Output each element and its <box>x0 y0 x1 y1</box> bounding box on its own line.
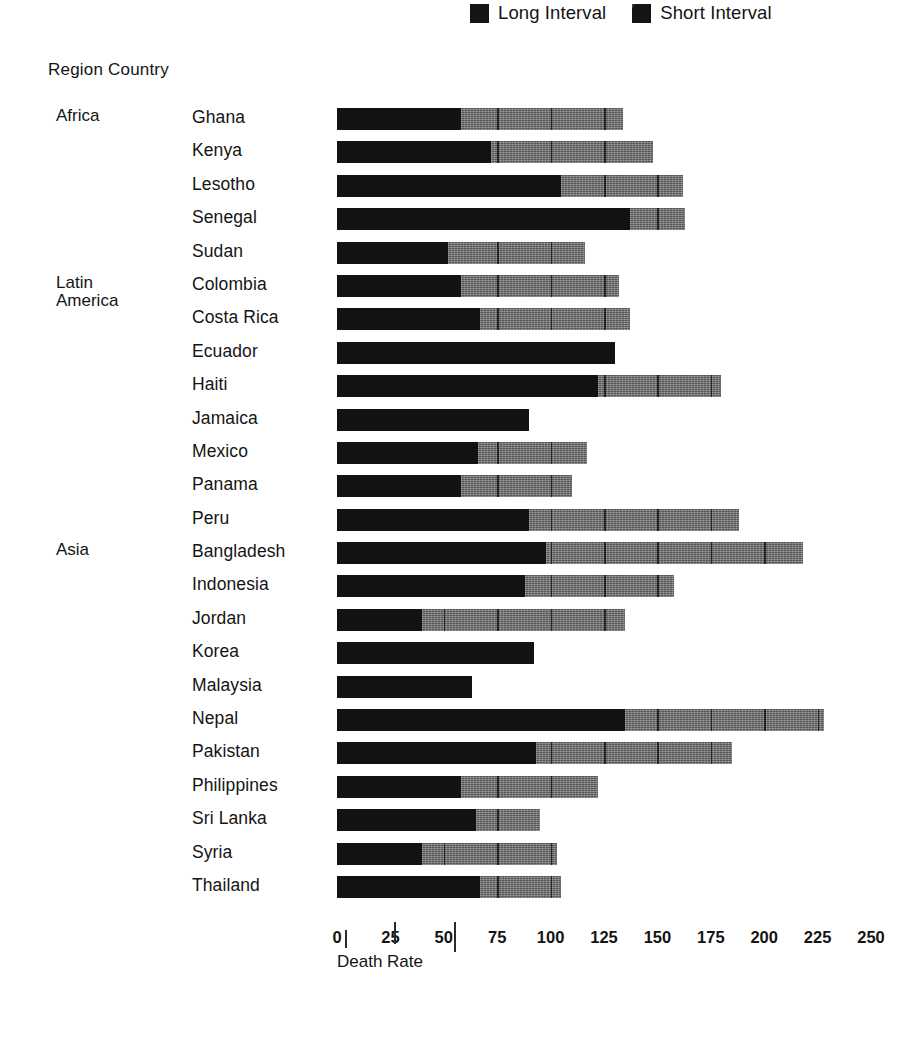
chart-row: Panama <box>0 471 901 504</box>
country-label: Ghana <box>192 107 245 128</box>
chart-row: Sri Lanka <box>0 805 901 838</box>
bar-interior-tick <box>657 509 659 531</box>
bar-segment-long-interval <box>337 375 598 397</box>
stacked-bar <box>337 843 557 865</box>
chart-row: Indonesia <box>0 571 901 604</box>
bar-wrapper <box>337 642 871 664</box>
bar-interior-tick <box>604 542 606 564</box>
bar-interior-tick <box>604 275 606 297</box>
bar-wrapper <box>337 308 871 330</box>
x-axis-tick-label: 200 <box>750 928 778 947</box>
bar-segment-short-interval <box>476 809 540 831</box>
bar-interior-tick <box>604 375 606 397</box>
bar-segment-long-interval <box>337 275 461 297</box>
x-axis-tick-label: 175 <box>697 928 725 947</box>
bar-segment-short-interval <box>461 108 623 130</box>
x-axis-rule-mark <box>345 930 347 948</box>
bar-segment-long-interval <box>337 542 546 564</box>
country-label: Lesotho <box>192 174 255 195</box>
chart-row: Jordan <box>0 605 901 638</box>
bar-segment-short-interval <box>480 876 561 898</box>
chart-row: Korea <box>0 638 901 671</box>
bar-chart-plot-area: AfricaGhanaKenyaLesothoSenegalSudanLatin… <box>0 104 901 905</box>
bar-segment-long-interval <box>337 141 491 163</box>
region-label: Asia <box>56 541 89 559</box>
country-label: Bangladesh <box>192 541 285 562</box>
bar-segment-long-interval <box>337 108 461 130</box>
bar-interior-tick <box>604 141 606 163</box>
country-label: Ecuador <box>192 341 258 362</box>
x-axis-tick-label: 25 <box>381 928 399 947</box>
bar-interior-tick <box>604 175 606 197</box>
bar-segment-long-interval <box>337 742 536 764</box>
bar-interior-tick <box>497 609 499 631</box>
bar-segment-long-interval <box>337 442 478 464</box>
chart-row: Costa Rica <box>0 304 901 337</box>
bar-interior-tick <box>497 843 499 865</box>
chart-row: Malaysia <box>0 672 901 705</box>
x-axis-rule-mark <box>394 922 396 944</box>
chart-row: Philippines <box>0 772 901 805</box>
x-axis-title: Death Rate <box>337 952 423 972</box>
bar-segment-long-interval <box>337 175 561 197</box>
chart-row: Haiti <box>0 371 901 404</box>
bar-wrapper <box>337 141 871 163</box>
bar-interior-tick <box>657 575 659 597</box>
bar-interior-tick <box>551 876 553 898</box>
bar-wrapper <box>337 843 871 865</box>
stacked-bar <box>337 342 615 364</box>
bar-segment-short-interval <box>422 609 625 631</box>
bar-segment-long-interval <box>337 342 615 364</box>
bar-interior-tick <box>497 108 499 130</box>
bar-wrapper <box>337 375 871 397</box>
bar-interior-tick <box>444 843 446 865</box>
stacked-bar <box>337 542 803 564</box>
bar-interior-tick <box>657 709 659 731</box>
stacked-bar <box>337 375 721 397</box>
stacked-bar <box>337 108 623 130</box>
x-axis-tick-label: 50 <box>435 928 453 947</box>
bar-interior-tick <box>604 609 606 631</box>
bar-segment-short-interval <box>529 509 738 531</box>
country-label: Indonesia <box>192 574 269 595</box>
chart-row: Senegal <box>0 204 901 237</box>
country-label: Sri Lanka <box>192 808 267 829</box>
bar-wrapper <box>337 776 871 798</box>
bar-interior-tick <box>497 442 499 464</box>
stacked-bar <box>337 275 619 297</box>
bar-interior-tick <box>604 575 606 597</box>
x-axis-tick-label: 225 <box>804 928 832 947</box>
bar-segment-long-interval <box>337 609 422 631</box>
bar-interior-tick <box>604 308 606 330</box>
bar-interior-tick <box>657 742 659 764</box>
bar-segment-long-interval <box>337 876 480 898</box>
bar-wrapper <box>337 542 871 564</box>
bar-interior-tick <box>818 709 820 731</box>
bar-interior-tick <box>551 275 553 297</box>
bar-interior-tick <box>604 509 606 531</box>
bar-wrapper <box>337 175 871 197</box>
bar-interior-tick <box>551 442 553 464</box>
chart-row: Ecuador <box>0 338 901 371</box>
country-label: Philippines <box>192 775 278 796</box>
bar-segment-short-interval <box>598 375 722 397</box>
bar-interior-tick <box>497 275 499 297</box>
bar-interior-tick <box>604 742 606 764</box>
bar-interior-tick <box>711 542 713 564</box>
bar-interior-tick <box>657 208 659 230</box>
x-axis-tick-label: 75 <box>488 928 506 947</box>
bar-segment-long-interval <box>337 709 625 731</box>
stacked-bar <box>337 208 685 230</box>
bar-segment-long-interval <box>337 776 461 798</box>
bar-interior-tick <box>497 876 499 898</box>
stacked-bar <box>337 642 534 664</box>
bar-interior-tick <box>711 509 713 531</box>
bar-segment-long-interval <box>337 208 630 230</box>
bar-wrapper <box>337 609 871 631</box>
bar-wrapper <box>337 509 871 531</box>
x-axis-rule-mark <box>454 922 456 952</box>
legend-entry: Short Interval <box>632 2 771 24</box>
country-label: Jamaica <box>192 408 258 429</box>
country-label: Thailand <box>192 875 260 896</box>
country-label: Malaysia <box>192 675 262 696</box>
